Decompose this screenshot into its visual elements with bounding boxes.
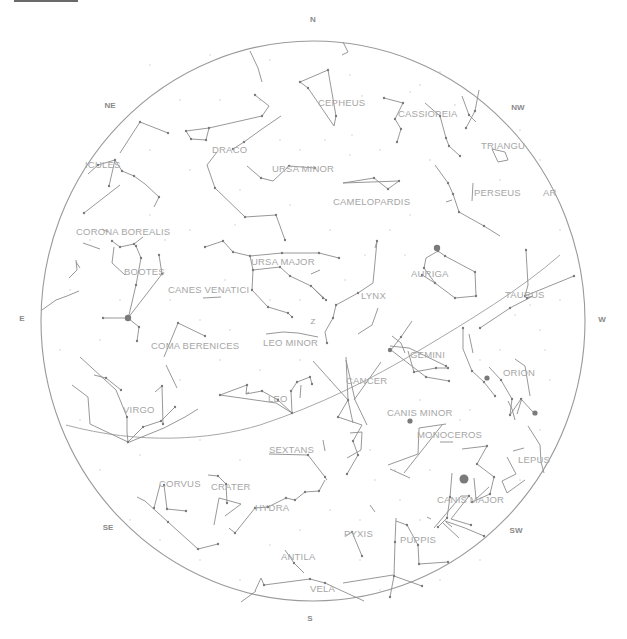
star [332, 317, 334, 319]
star [465, 127, 467, 129]
faint-star [269, 299, 270, 300]
star [376, 240, 378, 242]
constellation-label-draco[interactable]: DRACO [212, 144, 247, 155]
faint-star [419, 84, 420, 85]
star [459, 155, 461, 157]
faint-star [99, 339, 100, 340]
constellation-label-cassiopeia[interactable]: CASSIOPEIA [398, 108, 458, 119]
constellation-label-canis-major[interactable]: CANIS MAJOR [437, 494, 504, 505]
star [335, 115, 337, 117]
sky-chart[interactable]: CEPHEUSCASSIOPEIATRIANGUICULESDRACOURSA … [0, 0, 627, 639]
constellation-line [155, 386, 162, 392]
constellation-line [300, 385, 301, 398]
constellation-label-virgo[interactable]: VIRGO [123, 404, 155, 415]
constellation-label-sextans[interactable]: SEXTANS [269, 444, 314, 455]
constellation-label-corvus[interactable]: CORVUS [159, 478, 201, 489]
star [475, 295, 477, 297]
constellation-label-pyxis[interactable]: PYXIS [344, 528, 373, 539]
constellation-label-cancer[interactable]: CANCER [346, 375, 387, 386]
constellation-label-lynx[interactable]: LYNX [361, 290, 386, 301]
star [311, 383, 313, 385]
constellation-label-perseus[interactable]: PERSEUS [474, 187, 521, 198]
star [327, 69, 329, 71]
constellation-line [469, 334, 473, 353]
bright-star[interactable] [532, 410, 537, 415]
constellation-label-triangulum[interactable]: TRIANGU [481, 140, 525, 151]
star [307, 87, 309, 89]
constellation-label-antila[interactable]: ANTILA [281, 551, 316, 562]
constellation-label-gemini[interactable]: GEMINI [410, 349, 445, 360]
constellation-label-leo[interactable]: LEO [268, 393, 288, 404]
star [108, 185, 110, 187]
constellation-line [513, 448, 524, 451]
constellation-label-puppis[interactable]: PUPPIS [400, 534, 436, 545]
constellation-label-vela[interactable]: VELA [310, 583, 336, 594]
bright-star[interactable] [484, 375, 489, 380]
constellation-label-orion[interactable]: ORION [503, 367, 535, 378]
faint-star [419, 519, 420, 520]
faint-star [199, 559, 200, 560]
constellation-label-camelopardis[interactable]: CAMELOPARDIS [333, 196, 410, 207]
star [127, 441, 129, 443]
star [140, 257, 142, 259]
star [511, 398, 513, 400]
constellation-label-taurus[interactable]: TAURUS [505, 289, 545, 300]
bright-star[interactable] [125, 315, 131, 321]
constellation-label-aries[interactable]: AR [543, 187, 557, 198]
constellation-line [463, 328, 495, 396]
star [299, 81, 301, 83]
constellation-label-canis-minor[interactable]: CANIS MINOR [387, 407, 453, 418]
star [119, 246, 121, 248]
constellation-label-corona-borealis[interactable]: CORONA BOREALIS [76, 226, 170, 237]
constellation-label-coma-berenices[interactable]: COMA BERENICES [151, 340, 239, 351]
faint-star [429, 469, 430, 470]
constellation-label-canes-venatici[interactable]: CANES VENATICI [168, 284, 249, 295]
star [393, 575, 395, 577]
star [352, 440, 354, 442]
constellation-label-cepheus[interactable]: CEPHEUS [318, 97, 365, 108]
bright-star[interactable] [388, 348, 392, 352]
bright-star[interactable] [407, 418, 412, 423]
zenith-marker: Z [311, 317, 316, 326]
constellation-label-leo-minor[interactable]: LEO MINOR [263, 337, 318, 348]
constellation-label-bootes[interactable]: BOOTES [124, 266, 165, 277]
constellation-label-hercules[interactable]: ICULES [85, 159, 121, 170]
constellation-line [435, 165, 500, 236]
star [243, 141, 245, 143]
faint-star [364, 254, 365, 255]
faint-star [324, 139, 325, 140]
constellation-label-monoceros[interactable]: MONOCEROS [417, 429, 482, 440]
constellation-label-hydra[interactable]: HYDRA [255, 502, 290, 513]
faint-star [269, 544, 270, 545]
star [304, 491, 306, 493]
faint-star [559, 229, 560, 230]
faint-star [239, 579, 240, 580]
faint-star [299, 529, 300, 530]
faint-star [379, 589, 380, 590]
star [322, 297, 324, 299]
faint-star [149, 214, 150, 215]
bright-star[interactable] [460, 475, 469, 484]
star [338, 257, 340, 259]
faint-star [459, 419, 460, 420]
constellation-label-ursa-minor[interactable]: URSA MINOR [272, 163, 334, 174]
star [139, 121, 141, 123]
faint-star [129, 519, 130, 520]
faint-star [179, 99, 180, 100]
star [133, 175, 135, 177]
bright-star[interactable] [434, 245, 440, 251]
constellation-label-auriga[interactable]: AURIGA [411, 268, 449, 279]
star [573, 275, 575, 277]
constellation-label-lepus[interactable]: LEPUS [518, 454, 550, 465]
constellation-label-crater[interactable]: CRATER [211, 481, 251, 492]
faint-star [329, 509, 330, 510]
constellation-line [134, 176, 159, 207]
constellation-label-ursa-major[interactable]: URSA MAJOR [251, 256, 315, 267]
star [219, 394, 221, 396]
faint-star [179, 379, 180, 380]
star [309, 376, 311, 378]
constellation-labels: CEPHEUSCASSIOPEIATRIANGUICULESDRACOURSA … [76, 97, 557, 594]
star [263, 584, 265, 586]
star [413, 371, 415, 373]
faint-star [329, 229, 330, 230]
